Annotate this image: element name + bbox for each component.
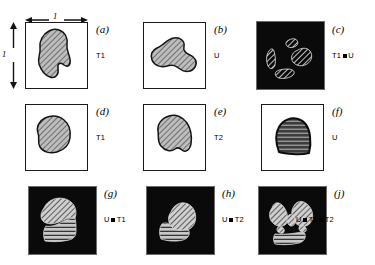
panel-d-shape-T1 xyxy=(25,104,88,171)
panel-a-tag: (a) xyxy=(96,24,109,35)
panel-a-label: T1 xyxy=(96,52,105,60)
panel-g-operand-1: U xyxy=(104,215,110,224)
intersect-operator-icon xyxy=(229,218,233,222)
panel-b-tag: (b) xyxy=(214,24,227,35)
panel-g-label: UT1 xyxy=(104,216,126,224)
intersect-operator-icon xyxy=(343,54,347,58)
panel-f-shape-U xyxy=(261,104,324,171)
height-dimension-label: 1 xyxy=(2,50,6,59)
panel-b xyxy=(143,22,206,89)
panel-g-shapes-U-intersect-T1 xyxy=(28,186,97,255)
panel-e-tag: (e) xyxy=(214,106,226,117)
panel-b-label: U xyxy=(214,52,220,60)
panel-b-shape-U xyxy=(143,22,206,89)
panel-j-operand-3: T2 xyxy=(325,215,334,224)
panel-h-tag: (h) xyxy=(222,188,235,199)
panel-e xyxy=(143,104,206,171)
panel-j-label: UT1T2 xyxy=(296,216,334,224)
panel-c-shapes-T1-intersect-U xyxy=(256,21,325,90)
panel-h xyxy=(146,186,215,255)
panel-j-operand-1: U xyxy=(296,215,302,224)
panel-a xyxy=(25,22,88,89)
panel-f-label: U xyxy=(332,134,338,142)
width-dimension-label: 1 xyxy=(53,12,57,21)
panel-c-tag: (c) xyxy=(332,24,344,35)
panel-d-tag: (d) xyxy=(96,106,109,117)
panel-g-operand-2: T1 xyxy=(117,215,126,224)
panel-f-tag: (f) xyxy=(332,106,342,117)
panel-j-tag: (j) xyxy=(334,188,344,199)
panel-g-tag: (g) xyxy=(104,188,117,199)
panel-h-operand-1: U xyxy=(222,215,228,224)
panel-e-label: T2 xyxy=(214,134,223,142)
intersect-operator-icon xyxy=(319,218,323,222)
panel-c xyxy=(256,21,325,90)
panel-e-shape-T2 xyxy=(143,104,206,171)
panel-h-label: UT2 xyxy=(222,216,244,224)
panel-g xyxy=(28,186,97,255)
panel-c-operand-1: T1 xyxy=(332,51,341,60)
panel-d xyxy=(25,104,88,171)
panel-f xyxy=(261,104,324,171)
panel-c-label: T1U xyxy=(332,52,354,60)
panel-h-operand-2: T2 xyxy=(235,215,244,224)
intersect-operator-icon xyxy=(303,218,307,222)
panel-h-shapes-U-intersect-T2 xyxy=(146,186,215,255)
panel-d-label: T1 xyxy=(96,134,105,142)
panel-c-operand-2: U xyxy=(348,51,354,60)
intersect-operator-icon xyxy=(111,218,115,222)
panel-j-operand-2: T1 xyxy=(309,215,318,224)
height-dimension-arrow xyxy=(7,22,20,89)
panel-a-shape-T1 xyxy=(25,22,88,89)
figure-panel-grid: 1 1 xyxy=(0,0,375,265)
